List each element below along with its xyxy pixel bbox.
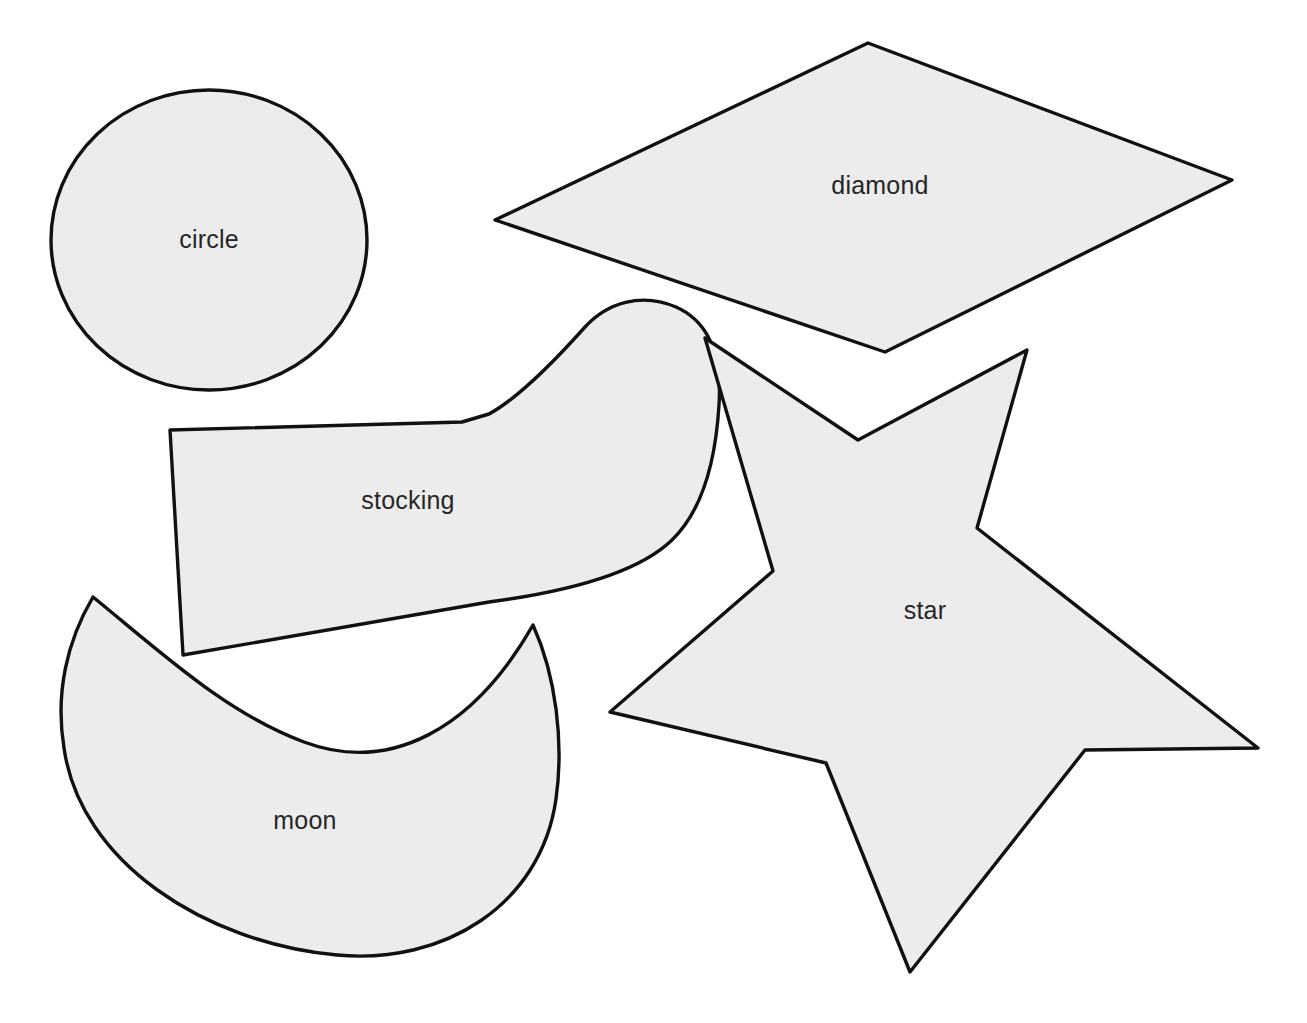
moon-shape[interactable] <box>61 597 559 956</box>
shape-sheet: circle diamond stocking star moon <box>0 0 1307 1023</box>
circle-shape[interactable] <box>51 90 367 390</box>
shapes-canvas <box>0 0 1307 1023</box>
diamond-shape[interactable] <box>495 43 1232 352</box>
